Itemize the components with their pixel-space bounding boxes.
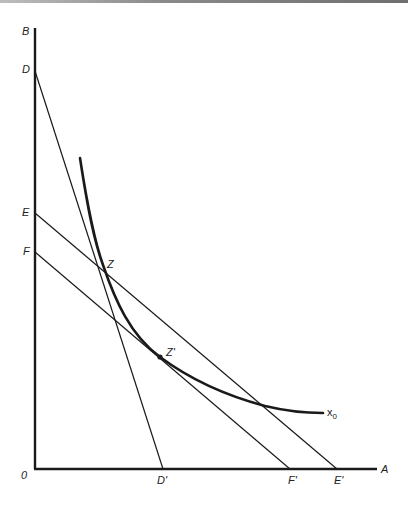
point-z-prime-marker <box>157 354 162 359</box>
axis-label-a: A <box>381 464 388 475</box>
isoquant-curve-x0 <box>80 158 323 413</box>
point-label-z-prime: Z' <box>166 347 175 358</box>
line-ee-prime <box>35 213 337 469</box>
axis-label-b: B <box>22 26 29 37</box>
origin-label: 0 <box>21 470 27 481</box>
point-label-e: E <box>22 207 29 218</box>
point-label-z: Z <box>107 259 114 270</box>
point-label-e-prime: E' <box>334 475 343 486</box>
diagram-canvas <box>0 0 408 506</box>
point-label-f-prime: F' <box>288 475 297 486</box>
curve-label-subscript: 0 <box>333 412 337 421</box>
line-dd-prime <box>35 71 163 469</box>
line-ff-prime <box>35 252 290 469</box>
point-label-d-prime: D' <box>157 475 167 486</box>
curve-label-x0: x0 <box>327 407 337 421</box>
point-label-d: D <box>22 64 30 75</box>
point-label-f: F <box>23 246 30 257</box>
